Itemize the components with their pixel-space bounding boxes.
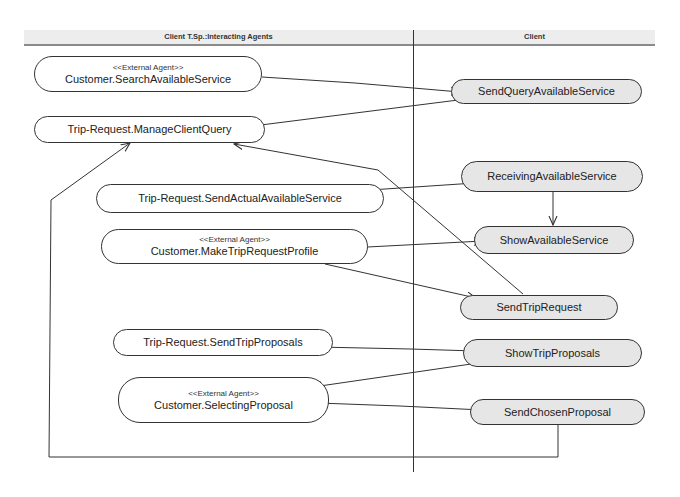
edge-selecting-to-sendchosen: [318, 403, 482, 410]
node-send-query-available-service[interactable]: SendQueryAvailableService: [451, 79, 642, 104]
node-manage-client-query[interactable]: Trip-Request.ManageClientQuery: [34, 116, 265, 143]
lane-header-interacting-agents: Client T.Sp.:Interacting Agents: [24, 30, 413, 46]
node-send-actual-available-service[interactable]: Trip-Request.SendActualAvailableService: [96, 184, 384, 213]
edge-sendproposals-to-showproposals: [317, 347, 476, 351]
lane-header-client: Client: [414, 30, 655, 46]
node-label: SendTripRequest: [496, 301, 581, 314]
edge-sendquery-to-manage: [245, 99, 466, 127]
node-label: Customer.SelectingProposal: [154, 399, 293, 412]
node-label: ShowAvailableService: [500, 234, 609, 247]
node-show-trip-proposals[interactable]: ShowTripProposals: [463, 339, 642, 367]
node-receiving-available-service[interactable]: ReceivingAvailableService: [461, 161, 643, 192]
stereotype-label: <<External Agent>>: [113, 63, 184, 73]
node-label: ShowTripProposals: [505, 347, 600, 360]
node-show-available-service[interactable]: ShowAvailableService: [474, 226, 634, 254]
node-label: Trip-Request.SendActualAvailableService: [138, 192, 342, 205]
edge-profile-to-sendtriprequest: [325, 264, 476, 298]
node-label: Trip-Request.ManageClientQuery: [67, 123, 231, 136]
edge-showproposals-to-selecting: [313, 363, 478, 387]
node-send-chosen-proposal[interactable]: SendChosenProposal: [470, 399, 645, 425]
node-label: SendChosenProposal: [504, 406, 611, 419]
node-customer-selecting-proposal[interactable]: <<External Agent>> Customer.SelectingPro…: [118, 377, 329, 423]
edge-search-to-sendquery: [262, 77, 460, 92]
node-label: Customer.SearchAvailableService: [65, 73, 231, 86]
stereotype-label: <<External Agent>>: [188, 389, 259, 399]
node-send-trip-request[interactable]: SendTripRequest: [460, 295, 618, 320]
edge-profile-to-showavailable: [348, 241, 483, 248]
node-label: Customer.MakeTripRequestProfile: [151, 245, 319, 258]
activity-diagram: Client T.Sp.:Interacting Agents Client: [0, 0, 680, 497]
node-label: Trip-Request.SendTripProposals: [143, 336, 302, 349]
node-customer-search-available-service[interactable]: <<External Agent>> Customer.SearchAvaila…: [34, 56, 262, 92]
stereotype-label: <<External Agent>>: [199, 235, 270, 245]
node-send-trip-proposals[interactable]: Trip-Request.SendTripProposals: [113, 329, 333, 356]
node-label: ReceivingAvailableService: [487, 170, 616, 183]
node-label: SendQueryAvailableService: [478, 85, 615, 98]
node-customer-make-trip-request-profile[interactable]: <<External Agent>> Customer.MakeTripRequ…: [101, 229, 368, 264]
